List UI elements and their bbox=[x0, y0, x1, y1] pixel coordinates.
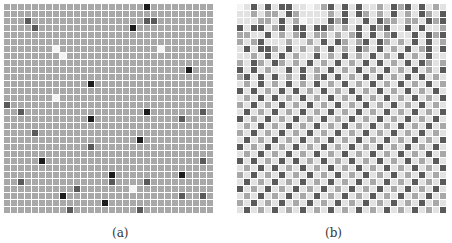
grid-cell bbox=[300, 95, 306, 101]
grid-cell bbox=[200, 53, 206, 59]
grid-cell bbox=[363, 11, 369, 17]
grid-cell bbox=[258, 193, 264, 199]
grid-cell bbox=[88, 11, 94, 17]
grid-cell bbox=[405, 116, 411, 122]
grid-cell bbox=[11, 144, 17, 150]
grid-cell bbox=[272, 158, 278, 164]
grid-cell bbox=[356, 39, 362, 45]
grid-cell bbox=[207, 193, 213, 199]
grid-cell bbox=[237, 39, 243, 45]
grid-cell bbox=[293, 193, 299, 199]
grid-cell bbox=[81, 95, 87, 101]
grid-cell bbox=[137, 32, 143, 38]
grid-cell bbox=[398, 158, 404, 164]
grid-cell bbox=[137, 46, 143, 52]
grid-cell bbox=[265, 200, 271, 206]
grid-cell bbox=[258, 95, 264, 101]
grid-cell bbox=[158, 207, 164, 213]
grid-cell bbox=[46, 11, 52, 17]
grid-cell bbox=[4, 165, 10, 171]
grid-cell bbox=[207, 179, 213, 185]
grid-panel-a bbox=[4, 4, 213, 213]
grid-cell bbox=[39, 200, 45, 206]
grid-cell bbox=[130, 46, 136, 52]
grid-cell bbox=[433, 179, 439, 185]
grid-cell bbox=[172, 4, 178, 10]
grid-cell bbox=[391, 186, 397, 192]
grid-cell bbox=[391, 116, 397, 122]
grid-cell bbox=[144, 67, 150, 73]
grid-cell bbox=[426, 158, 432, 164]
grid-cell bbox=[88, 123, 94, 129]
grid-cell bbox=[130, 39, 136, 45]
grid-cell bbox=[314, 60, 320, 66]
grid-cell bbox=[265, 25, 271, 31]
grid-cell bbox=[391, 144, 397, 150]
grid-cell bbox=[363, 144, 369, 150]
grid-cell bbox=[53, 137, 59, 143]
grid-cell bbox=[251, 158, 257, 164]
grid-cell bbox=[74, 102, 80, 108]
grid-cell bbox=[335, 25, 341, 31]
grid-cell bbox=[102, 88, 108, 94]
grid-cell bbox=[258, 74, 264, 80]
grid-cell bbox=[286, 95, 292, 101]
grid-cell bbox=[4, 186, 10, 192]
grid-cell bbox=[335, 39, 341, 45]
grid-cell bbox=[419, 158, 425, 164]
grid-cell bbox=[286, 109, 292, 115]
grid-cell bbox=[251, 32, 257, 38]
grid-cell bbox=[158, 193, 164, 199]
grid-cell bbox=[342, 95, 348, 101]
grid-cell bbox=[391, 95, 397, 101]
grid-cell bbox=[179, 179, 185, 185]
grid-cell bbox=[74, 4, 80, 10]
grid-cell bbox=[279, 18, 285, 24]
grid-cell bbox=[356, 172, 362, 178]
grid-cell bbox=[151, 39, 157, 45]
grid-cell bbox=[11, 123, 17, 129]
grid-cell bbox=[172, 11, 178, 17]
grid-cell bbox=[251, 39, 257, 45]
grid-cell bbox=[53, 39, 59, 45]
grid-cell bbox=[307, 179, 313, 185]
grid-cell bbox=[370, 137, 376, 143]
grid-cell bbox=[137, 88, 143, 94]
grid-cell bbox=[419, 130, 425, 136]
grid-cell bbox=[207, 207, 213, 213]
grid-cell bbox=[25, 46, 31, 52]
grid-cell bbox=[109, 88, 115, 94]
grid-cell bbox=[95, 18, 101, 24]
grid-cell bbox=[300, 53, 306, 59]
grid-cell bbox=[74, 53, 80, 59]
grid-cell bbox=[356, 158, 362, 164]
grid-cell bbox=[165, 158, 171, 164]
grid-cell bbox=[53, 172, 59, 178]
grid-cell bbox=[328, 32, 334, 38]
grid-cell bbox=[109, 32, 115, 38]
grid-cell bbox=[244, 74, 250, 80]
grid-cell bbox=[272, 88, 278, 94]
grid-cell bbox=[286, 186, 292, 192]
grid-cell bbox=[384, 46, 390, 52]
grid-cell bbox=[60, 74, 66, 80]
grid-cell bbox=[384, 200, 390, 206]
grid-cell bbox=[251, 53, 257, 59]
grid-cell bbox=[405, 200, 411, 206]
grid-cell bbox=[342, 25, 348, 31]
grid-cell bbox=[300, 151, 306, 157]
grid-cell bbox=[391, 109, 397, 115]
grid-cell bbox=[384, 186, 390, 192]
grid-cell bbox=[279, 25, 285, 31]
grid-cell bbox=[258, 18, 264, 24]
grid-cell bbox=[116, 151, 122, 157]
grid-cell bbox=[144, 109, 150, 115]
grid-cell bbox=[186, 95, 192, 101]
grid-cell bbox=[286, 81, 292, 87]
grid-cell bbox=[272, 25, 278, 31]
grid-cell bbox=[109, 116, 115, 122]
grid-cell bbox=[384, 137, 390, 143]
grid-cell bbox=[123, 151, 129, 157]
grid-cell bbox=[363, 46, 369, 52]
grid-cell bbox=[272, 151, 278, 157]
